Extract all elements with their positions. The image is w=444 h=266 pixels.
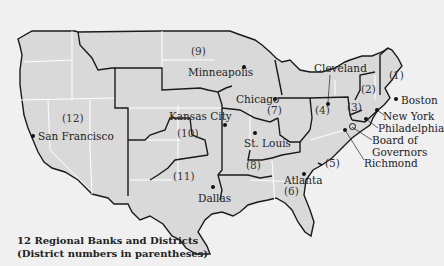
city-label-new-york: New York bbox=[383, 111, 434, 122]
district-number-10: (10) bbox=[177, 128, 199, 139]
city-dot-richmond bbox=[343, 128, 347, 132]
board-label-line1: Board of bbox=[372, 135, 418, 146]
district-number-12: (12) bbox=[62, 113, 84, 124]
city-label-st-louis: St. Louis bbox=[244, 138, 291, 149]
city-dot-boston bbox=[394, 97, 398, 101]
board-label-line2: Governors bbox=[372, 147, 427, 158]
city-label-dallas: Dallas bbox=[198, 193, 231, 204]
city-dot-cleveland bbox=[326, 102, 330, 106]
district-number-6: (6) bbox=[284, 186, 299, 197]
city-label-kansas-city: Kansas City bbox=[169, 111, 232, 122]
city-label-philadelphia: Philadelphia bbox=[378, 123, 444, 134]
city-dot-dallas bbox=[211, 185, 215, 189]
district-number-7: (7) bbox=[267, 105, 282, 116]
city-dot-san-francisco bbox=[31, 134, 35, 138]
city-dot-kansas-city bbox=[223, 123, 227, 127]
city-label-boston: Boston bbox=[401, 95, 438, 106]
district-number-2: (2) bbox=[361, 84, 376, 95]
district-number-9: (9) bbox=[191, 46, 206, 57]
district-number-5: (5) bbox=[325, 158, 340, 169]
city-label-san-francisco: San Francisco bbox=[38, 131, 114, 142]
legend-title: 12 Regional Banks and Districts bbox=[17, 234, 208, 247]
legend-subtitle: (District numbers in parentheses) bbox=[17, 247, 208, 260]
map-legend: 12 Regional Banks and Districts (Distric… bbox=[17, 234, 208, 260]
district-number-8: (8) bbox=[246, 160, 261, 171]
city-dot-philadelphia bbox=[364, 117, 368, 121]
district-number-4: (4) bbox=[315, 105, 330, 116]
city-label-chicago: Chicago bbox=[236, 94, 279, 105]
district-number-11: (11) bbox=[173, 171, 195, 182]
city-dot-st-louis bbox=[253, 131, 257, 135]
city-label-atlanta: Atlanta bbox=[284, 175, 322, 186]
district-number-1: (1) bbox=[389, 70, 404, 81]
city-label-richmond: Richmond bbox=[364, 158, 418, 169]
district-number-3: (3) bbox=[347, 102, 362, 113]
city-label-minneapolis: Minneapolis bbox=[188, 67, 253, 78]
city-dot-new-york bbox=[375, 108, 379, 112]
city-label-cleveland: Cleveland bbox=[314, 63, 367, 74]
board-of-governors-marker bbox=[349, 123, 356, 130]
